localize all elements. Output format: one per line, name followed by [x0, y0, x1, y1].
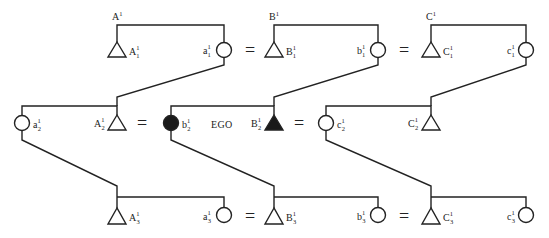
- female-node-b2-filled: b12: [164, 116, 191, 133]
- sibling-line-row2-B: [171, 106, 274, 116]
- svg-text:C1: C1: [426, 10, 436, 22]
- marriage-sign: =: [399, 206, 409, 226]
- marriage-sign: =: [294, 113, 304, 133]
- svg-text:b13: b13: [357, 209, 366, 224]
- female-node-a1: a11: [203, 43, 232, 59]
- kinship-diagram: A1 B1 C1 A11 a11 = B11 b11 = C11 c11: [0, 0, 549, 238]
- svg-text:C12: C12: [408, 116, 418, 131]
- female-node-c3: c13: [507, 208, 534, 225]
- circle-icon: [319, 116, 334, 131]
- ego-label: EGO: [211, 119, 232, 130]
- marriage-sign: =: [245, 40, 255, 60]
- filled-triangle-icon: [265, 115, 283, 130]
- svg-text:A11: A11: [129, 44, 140, 59]
- circle-icon: [371, 208, 386, 223]
- svg-text:b11: b11: [357, 43, 365, 58]
- svg-text:a13: a13: [203, 209, 211, 224]
- svg-text:A1: A1: [112, 10, 122, 22]
- descent-line-b1-B2: [274, 58, 378, 107]
- sibling-line-row3-A: [117, 197, 224, 208]
- group-header-B: B1: [269, 10, 279, 22]
- male-node-C3: C13: [422, 208, 453, 225]
- triangle-icon: [108, 208, 126, 224]
- svg-text:a12: a12: [33, 117, 41, 132]
- female-node-b3: b13: [357, 208, 386, 225]
- svg-text:b12: b12: [182, 117, 191, 132]
- svg-text:B12: B12: [251, 116, 261, 131]
- svg-text:c12: c12: [337, 117, 345, 132]
- descent-line-a2-A3: [22, 131, 117, 209]
- group-header-A: A1: [112, 10, 122, 22]
- sibling-line-A1: [117, 25, 224, 43]
- female-node-c1: c11: [507, 43, 534, 59]
- male-node-A1: A11: [108, 42, 140, 59]
- triangle-icon: [108, 42, 126, 57]
- marriage-sign: =: [245, 206, 255, 226]
- descent-line-a1-A2: [117, 58, 224, 107]
- female-node-b1: b11: [357, 43, 386, 59]
- triangle-icon: [422, 42, 440, 57]
- male-node-B3: B13: [265, 208, 296, 225]
- circle-icon: [519, 208, 534, 223]
- male-node-B1: B11: [265, 42, 296, 59]
- male-node-A3: A13: [108, 208, 140, 225]
- circle-icon: [519, 43, 534, 58]
- svg-text:c13: c13: [507, 209, 515, 224]
- circle-icon: [217, 43, 232, 58]
- descent-line-c1-C2: [431, 58, 526, 107]
- sibling-line-B1: [274, 25, 378, 43]
- male-node-B2-filled: B12: [251, 115, 283, 131]
- circle-icon: [217, 208, 232, 223]
- female-node-a3: a13: [203, 208, 232, 225]
- group-header-C: C1: [426, 10, 436, 22]
- sibling-line-row2-C: [326, 106, 431, 116]
- sibling-line-C1: [431, 25, 526, 43]
- male-node-C1: C11: [422, 42, 453, 59]
- svg-text:B11: B11: [286, 44, 296, 59]
- svg-text:a11: a11: [203, 43, 211, 58]
- male-node-C2: C12: [408, 115, 440, 131]
- circle-icon: [371, 43, 386, 58]
- triangle-icon: [422, 208, 440, 224]
- svg-text:B1: B1: [269, 10, 279, 22]
- marriage-sign: =: [137, 113, 147, 133]
- svg-text:A13: A13: [129, 210, 140, 225]
- triangle-icon: [422, 115, 440, 130]
- filled-circle-icon: [164, 116, 179, 131]
- triangle-icon: [265, 42, 283, 57]
- svg-text:A12: A12: [94, 116, 105, 131]
- svg-text:B13: B13: [286, 210, 296, 225]
- female-node-a2: a12: [15, 116, 41, 133]
- triangle-icon: [265, 208, 283, 224]
- male-node-A2: A12: [94, 115, 126, 131]
- marriage-sign: =: [399, 40, 409, 60]
- svg-text:C11: C11: [443, 44, 453, 59]
- circle-icon: [15, 116, 30, 131]
- triangle-icon: [108, 115, 126, 130]
- svg-text:C13: C13: [443, 210, 453, 225]
- svg-text:c11: c11: [507, 43, 515, 58]
- sibling-line-row2-A: [22, 106, 117, 116]
- sibling-line-row3-B: [274, 197, 378, 208]
- sibling-line-row3-C: [431, 197, 526, 208]
- female-node-c2: c12: [319, 116, 345, 133]
